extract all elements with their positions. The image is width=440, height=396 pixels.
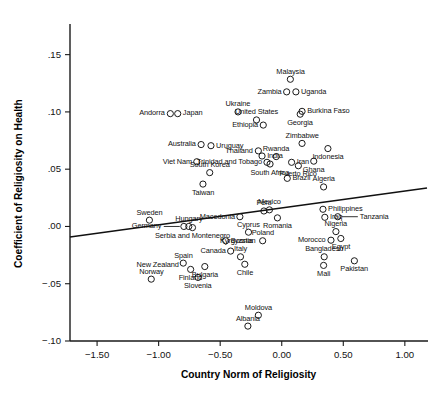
x-tick-label: −1.50 [67,350,127,360]
data-point [242,261,248,267]
point-label: Slovenia [184,282,212,289]
data-point [288,159,294,165]
point-label: Sweden [136,209,162,216]
point-label: Bangladesh [305,245,343,252]
point-label: Ethiopia [232,121,258,128]
point-label: Kyrgyzstan [220,237,256,244]
point-label: Uganda [301,88,326,95]
point-label: Andorra [139,109,165,116]
axes-group [65,24,428,346]
data-point [293,89,299,95]
x-tick-label: 0.00 [252,350,312,360]
x-tick-label: −1.00 [129,350,189,360]
data-point [338,235,344,241]
data-point [148,276,154,282]
point-label: Mali [317,270,330,277]
point-label: Germany [132,222,162,229]
data-point [180,260,186,266]
point-label: Rwanda [263,145,290,152]
point-label: Albania [236,315,260,322]
data-point [320,184,326,190]
data-point [284,89,290,95]
point-label: Nigeria [324,220,347,227]
data-point [320,262,326,268]
data-point [320,206,326,212]
point-label: Indonesia [312,153,343,160]
point-label: Brazil [292,174,310,181]
data-point [260,238,266,244]
data-point [237,254,243,260]
point-label: Hungary [175,215,202,222]
point-label: Zambia [258,88,282,95]
point-label: Viet Nam [163,158,192,165]
data-point [208,143,214,149]
point-label: Peru [256,199,271,206]
data-point [260,122,266,128]
plot-canvas [0,0,440,396]
point-label: Italy [234,245,247,252]
point-label: Taiwan [192,189,214,196]
y-tick-label: −.10 [0,336,61,346]
x-axis-title: Country Norm of Religiosity [181,370,316,380]
y-tick-label: .15 [0,50,61,60]
point-label: Spain [174,252,192,259]
data-point [175,111,181,117]
x-tick-label: 0.50 [313,350,373,360]
point-label: Moldova [245,304,272,311]
data-point [351,258,357,264]
y-tick-label: .00 [0,221,61,231]
point-label: Norway [139,268,163,275]
point-label: Malaysia [276,68,304,75]
point-label: Burkina Faso [307,107,349,114]
scatter-plot-figure: AndorraJapanAustraliaUruguayViet NamSout… [0,0,440,396]
y-axis-title: Coefficient of Religiosity on Health [14,99,24,268]
point-label: Serbia and Montenegro [155,232,230,239]
point-label: Chile [237,269,253,276]
data-point [333,229,339,235]
data-point [321,254,327,260]
point-label: Zimbabwe [286,132,319,139]
point-label: Japan [183,109,203,116]
y-tick-label: −.05 [0,279,61,289]
data-point [200,181,206,187]
point-label: Thailand [225,147,253,154]
y-tick-label: .10 [0,107,61,117]
point-label: Georgia [287,119,313,126]
point-label: Tanzania [360,213,389,220]
data-point [198,141,204,147]
point-label: Bulgaria [192,271,218,278]
y-tick-label: .05 [0,164,61,174]
data-point [202,263,208,269]
data-point [299,140,305,146]
point-label: Macedonia [200,213,235,220]
point-label: Algeria [313,175,335,182]
data-point [189,225,195,231]
point-label: Morocco [298,236,326,243]
point-label: Pakistan [340,265,368,272]
data-point [287,76,293,82]
point-label: United States [235,108,278,115]
point-label: Trinidad and Tobago [197,158,262,165]
point-label: Cyprus [237,221,260,228]
point-label: Canada [201,247,226,254]
x-tick-label: 1.00 [375,350,435,360]
data-point [237,214,243,220]
data-point [245,323,251,329]
data-point [274,215,280,221]
x-tick-label: −0.50 [190,350,250,360]
data-point [325,145,331,151]
data-point [245,229,251,235]
data-point [207,170,213,176]
point-label: Australia [168,140,196,147]
data-point [167,111,173,117]
data-point [228,248,234,254]
